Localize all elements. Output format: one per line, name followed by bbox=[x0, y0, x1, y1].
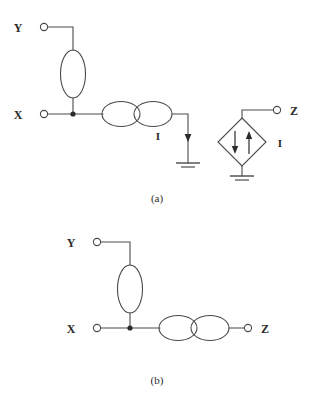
circuit-canvas: Y X Z I I (a) Y X Z (b) bbox=[0, 0, 314, 404]
dependent-current-source-diamond-a bbox=[218, 118, 266, 166]
label-current-right-a: I bbox=[278, 137, 282, 149]
label-terminal-y-b: Y bbox=[67, 236, 76, 250]
panel-a-group bbox=[40, 23, 280, 180]
terminal-y-circle-a bbox=[40, 23, 47, 30]
circuit-figure: Y X Z I I (a) Y X Z (b) bbox=[0, 0, 314, 404]
panel-b-group bbox=[93, 238, 251, 340]
label-terminal-x-a: X bbox=[14, 108, 23, 122]
wire-coupled-to-ground-a bbox=[172, 114, 188, 163]
label-terminal-z-b: Z bbox=[261, 322, 269, 336]
source-arrow-up-head-a bbox=[246, 131, 252, 139]
caption-panel-a: (a) bbox=[151, 192, 164, 205]
terminal-z-circle-a bbox=[273, 106, 280, 113]
source-arrow-down-head-a bbox=[232, 146, 238, 154]
terminal-x-circle-a bbox=[40, 110, 47, 117]
vertical-ellipse-b bbox=[118, 265, 143, 313]
wire-y-to-element-a bbox=[48, 27, 73, 50]
label-terminal-z-a: Z bbox=[290, 104, 298, 118]
terminal-y-circle-b bbox=[93, 238, 100, 245]
terminal-z-circle-b bbox=[244, 324, 251, 331]
junction-dot-b bbox=[127, 325, 132, 330]
caption-panel-b: (b) bbox=[151, 374, 164, 387]
wire-source-to-z-a bbox=[242, 110, 273, 118]
label-terminal-x-b: X bbox=[67, 322, 76, 336]
label-terminal-y-a: Y bbox=[14, 21, 23, 35]
vertical-ellipse-a bbox=[61, 50, 86, 98]
label-current-left-a: I bbox=[156, 130, 160, 142]
junction-dot-a bbox=[70, 111, 75, 116]
terminal-x-circle-b bbox=[93, 324, 100, 331]
wire-y-to-element-b bbox=[101, 242, 130, 265]
current-arrow-down-a bbox=[185, 134, 192, 142]
